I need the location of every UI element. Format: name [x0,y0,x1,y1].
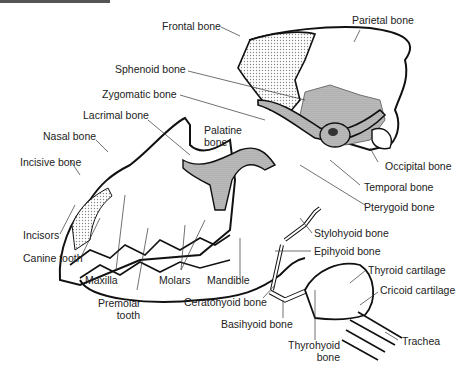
label-thyroid-cartilage: Thyroid cartilage [368,264,446,276]
label-nasal-bone: Nasal bone [43,130,96,142]
label-stylohyoid-bone: Stylohyoid bone [314,227,389,239]
label-premolar-tooth-1: Premolar [98,297,140,309]
label-trachea: Trachea [402,335,440,347]
label-molars: Molars [159,274,191,286]
label-parietal-bone: Parietal bone [352,14,414,26]
label-pterygoid-bone: Pterygoid bone [364,201,435,213]
label-lacrimal-bone: Lacrimal bone [83,109,149,121]
label-occipital-bone: Occipital bone [385,160,452,172]
label-zygomatic-bone: Zygomatic bone [102,88,177,100]
ear-canal [328,128,338,136]
label-cricoid-cartilage: Cricoid cartilage [380,284,455,296]
label-premolar-tooth-2: tooth [98,309,140,321]
label-palatine-bone-2: bone [204,136,227,148]
label-frontal-bone: Frontal bone [162,20,221,32]
label-maxilla: Maxilla [85,274,118,286]
label-temporal-bone: Temporal bone [364,181,433,193]
label-thyrohyoid-bone-2: bone [280,351,340,363]
label-sphenoid-bone: Sphenoid bone [115,63,186,75]
label-palatine-bone-1: Palatine [204,124,242,136]
label-mandible: Mandible [207,274,250,286]
label-ceratohyoid-bone: Ceratohyoid bone [184,296,267,308]
label-epihyoid-bone: Epihyoid bone [314,245,381,257]
label-basihyoid-bone: Basihyoid bone [221,318,293,330]
label-incisors: Incisors [23,229,59,241]
label-incisive-bone: Incisive bone [20,156,81,168]
label-thyrohyoid-bone-1: Thyrohyoid [280,339,340,351]
label-canine-tooth: Canine tooth [23,252,83,264]
skull-diagram: Frontal bone Parietal bone Sphenoid bone… [0,0,470,377]
